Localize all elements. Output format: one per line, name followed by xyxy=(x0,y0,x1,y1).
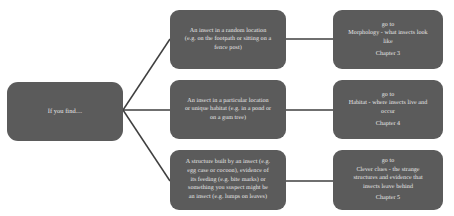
node-habitat-chapter: Chapter 4 xyxy=(338,120,438,129)
connector-start-to-random xyxy=(123,39,170,110)
node-morphology-goto: go to xyxy=(338,21,438,30)
node-random-location-line-2: (e.g. on the footpath or sitting on a xyxy=(175,35,281,44)
node-particular-location[interactable]: An insect in a particular location or un… xyxy=(170,80,286,139)
node-random-location[interactable]: An insect in a random location (e.g. on … xyxy=(170,10,286,69)
node-start[interactable]: If you find.... xyxy=(7,82,123,141)
node-start-line-1: If you find.... xyxy=(12,107,118,116)
node-habitat-line-2: occur xyxy=(338,108,438,117)
node-clever-clues-line-3: insects leave behind xyxy=(338,183,438,192)
node-habitat-line-1: Habitat - where insects live and xyxy=(338,99,438,108)
node-structure-built-line-2: egg case or cocoon), evidence of xyxy=(175,167,281,176)
node-structure-built[interactable]: A structure built by an insect (e.g. egg… xyxy=(170,150,286,210)
node-particular-location-line-2: or unique habitat (e.g. in a pond or xyxy=(175,105,281,114)
node-particular-location-line-1: An insect in a particular location xyxy=(175,97,281,106)
node-morphology-line-2: like xyxy=(338,38,438,47)
node-morphology-chapter: Chapter 3 xyxy=(338,50,438,59)
node-clever-clues-chapter: Chapter 5 xyxy=(338,194,438,203)
node-particular-location-line-3: on a gum tree) xyxy=(175,114,281,123)
node-clever-clues-line-1: Clever clues - the strange xyxy=(338,166,438,175)
node-structure-built-line-3: its feeding (e.g. bite marks) or xyxy=(175,176,281,185)
node-random-location-line-3: fence post) xyxy=(175,44,281,53)
node-morphology-line-1: Morphology - what insects look xyxy=(338,29,438,38)
node-habitat-goto: go to xyxy=(338,91,438,100)
node-clever-clues-goto: go to xyxy=(338,157,438,166)
node-structure-built-line-5: an insect (e.g. lumps on leaves) xyxy=(175,193,281,202)
node-habitat[interactable]: go to Habitat - where insects live and o… xyxy=(333,80,443,139)
node-clever-clues[interactable]: go to Clever clues - the strange structu… xyxy=(333,150,443,210)
node-clever-clues-line-2: structures and evidence that xyxy=(338,174,438,183)
node-structure-built-line-4: something you suspect might be xyxy=(175,184,281,193)
connector-start-to-structure xyxy=(123,110,170,181)
node-morphology[interactable]: go to Morphology - what insects look lik… xyxy=(333,10,443,69)
flowchart-canvas: If you find.... An insect in a random lo… xyxy=(0,0,454,216)
node-random-location-line-1: An insect in a random location xyxy=(175,27,281,36)
node-structure-built-line-1: A structure built by an insect (e.g. xyxy=(175,158,281,167)
